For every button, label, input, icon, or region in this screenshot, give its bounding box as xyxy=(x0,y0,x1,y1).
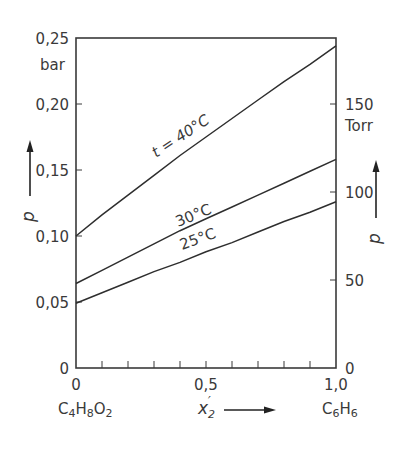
left-y-tick-label: 0,10 xyxy=(36,228,69,246)
right-y-tick-label: 50 xyxy=(345,272,364,290)
left-y-tick-label: 0 xyxy=(59,360,69,378)
left-y-tick-label: 0,20 xyxy=(36,96,69,114)
curve-30c xyxy=(76,159,336,283)
left-unit-label: bar xyxy=(40,56,66,74)
curve-label-40c: t = 40°C xyxy=(148,111,213,162)
vapor-pressure-chart: 00,050,100,150,200,25 050100150 00,51,0 … xyxy=(0,0,404,450)
right-p-label: p xyxy=(364,233,384,245)
x-axis-labels: 00,51,0 xyxy=(71,376,348,394)
left-compound-label: C4H8O2 xyxy=(58,400,113,420)
right-y-tick-label: 100 xyxy=(345,184,374,202)
left-y-axis-title: p xyxy=(18,140,38,223)
x-var-label: x2′ xyxy=(197,394,215,421)
x-tick-label: 0 xyxy=(71,376,81,394)
x-tick-label: 1,0 xyxy=(324,376,348,394)
curve-40-gap xyxy=(113,180,117,184)
x-axis-title: x2′ xyxy=(197,394,276,421)
left-p-label: p xyxy=(18,211,38,223)
right-compound-label: C6H6 xyxy=(322,400,358,420)
left-y-tick-label: 0,05 xyxy=(36,294,69,312)
right-y-tick-label: 150 xyxy=(345,96,374,114)
x-tick-label: 0,5 xyxy=(194,376,218,394)
left-y-tick-label: 0,25 xyxy=(36,30,69,48)
left-y-tick-label: 0,15 xyxy=(36,162,69,180)
curves xyxy=(76,46,336,303)
left-y-axis-labels: 00,050,100,150,200,25 xyxy=(36,30,69,378)
x-axis-ticks xyxy=(102,361,310,368)
right-y-axis-title: p xyxy=(364,160,384,245)
right-y-axis-ticks xyxy=(330,104,336,280)
right-unit-label: Torr xyxy=(344,117,374,135)
left-y-axis-ticks xyxy=(76,104,82,302)
